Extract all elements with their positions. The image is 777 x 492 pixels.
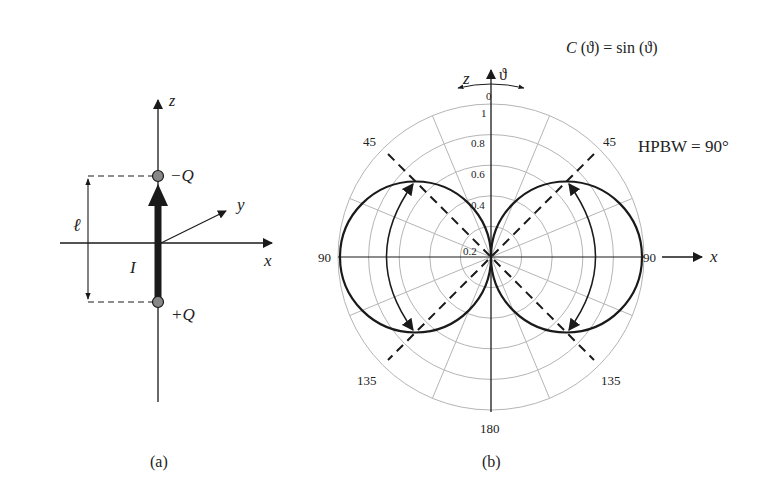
label-theta: ϑ xyxy=(499,66,507,83)
charge-bottom-dot xyxy=(153,297,164,308)
radial-0-6: 0.6 xyxy=(471,168,485,180)
radial-0-4: 0.4 xyxy=(471,199,485,211)
label-x-a: x xyxy=(263,251,272,270)
caption-b: (b) xyxy=(482,453,501,471)
radial-0-8: 0.8 xyxy=(471,137,485,149)
angle-0: 0 xyxy=(486,90,492,102)
label-charge-top: −Q xyxy=(170,166,194,185)
panel-a xyxy=(60,100,272,402)
angle-135-right: 135 xyxy=(601,373,621,388)
label-charge-bottom: +Q xyxy=(171,305,195,324)
y-axis xyxy=(161,211,226,243)
label-y-a: y xyxy=(235,195,245,214)
angle-180: 180 xyxy=(480,421,500,436)
charge-top-dot xyxy=(153,171,164,182)
dipole-diagram: z x y −Q +Q ℓ I (a) z ϑ C (ϑ) = sin ( xyxy=(0,0,777,492)
label-z-a: z xyxy=(168,92,176,109)
angle-45-right: 45 xyxy=(603,134,616,149)
label-x-b: x xyxy=(709,247,718,266)
angle-45-left: 45 xyxy=(363,134,376,149)
formula: C (ϑ) = sin (ϑ) xyxy=(566,39,658,57)
label-length: ℓ xyxy=(73,215,81,235)
hpbw-label: HPBW = 90° xyxy=(638,137,729,156)
polar-axes xyxy=(338,70,702,412)
angle-135-left: 135 xyxy=(357,373,377,388)
caption-a: (a) xyxy=(150,453,168,471)
radial-0-2: 0.2 xyxy=(463,245,477,257)
angle-90-right: 90 xyxy=(643,250,656,265)
angle-90-left: 90 xyxy=(318,250,331,265)
label-current: I xyxy=(129,258,137,277)
current-arrowhead xyxy=(148,184,168,206)
radial-1: 1 xyxy=(481,107,487,119)
label-z-b: z xyxy=(462,69,470,88)
